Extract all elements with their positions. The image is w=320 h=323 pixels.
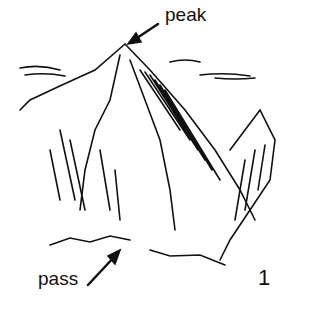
figure-number: 1	[258, 265, 270, 291]
peak-label: peak	[165, 4, 206, 26]
pass-label: pass	[38, 268, 78, 290]
